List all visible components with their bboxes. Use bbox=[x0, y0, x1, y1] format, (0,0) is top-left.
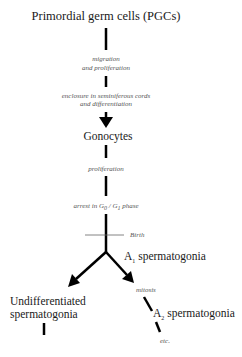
note-birth: Birth bbox=[130, 231, 144, 239]
note-proliferation: proliferation bbox=[88, 165, 124, 173]
note-enclosure-2: and differentiation bbox=[80, 100, 132, 108]
germ-cell-development-diagram: Primordial germ cells (PGCs) migration a… bbox=[0, 0, 242, 357]
node-a1-spermatogonia: A1 spermatogonia bbox=[124, 250, 206, 264]
arrowhead-gonocytes bbox=[99, 117, 113, 128]
a2-suffix: spermatogonia bbox=[164, 307, 235, 319]
note-enclosure-1: enclosure in seminiferous cords bbox=[62, 92, 150, 100]
node-a2-spermatogonia: A2 spermatogonia bbox=[153, 307, 235, 321]
note-migration-1: migration bbox=[92, 55, 120, 63]
connector-mitosis-a bbox=[144, 297, 152, 311]
a1-suffix: spermatogonia bbox=[135, 250, 206, 262]
arrow-to-undifferentiated bbox=[76, 252, 106, 279]
note-mitosis: mitosis bbox=[136, 286, 156, 294]
node-undifferentiated-2: spermatogonia bbox=[10, 308, 78, 320]
note-arrest: arrest in G0 / G1 phase bbox=[73, 202, 138, 211]
note-arrest-suffix: phase bbox=[120, 202, 138, 210]
node-gonocytes: Gonocytes bbox=[83, 130, 132, 142]
node-pgcs: Primordial germ cells (PGCs) bbox=[32, 9, 181, 24]
note-arrest-mid: / G bbox=[107, 202, 118, 210]
connector-a2 bbox=[156, 322, 160, 332]
note-arrest-prefix: arrest in G bbox=[73, 202, 103, 210]
note-migration-2: and proliferation bbox=[82, 64, 130, 72]
node-undifferentiated-1: Undifferentiated bbox=[10, 295, 86, 307]
note-etc: etc. bbox=[160, 337, 170, 345]
